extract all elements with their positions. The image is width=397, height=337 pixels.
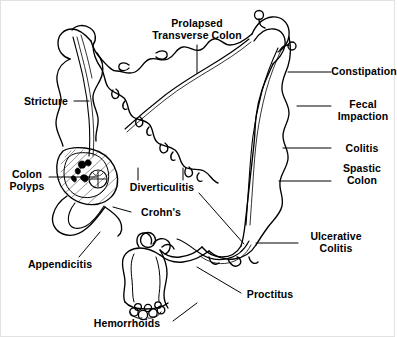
label-hemorrhoids: Hemorrhoids [94, 317, 160, 329]
colon-outline [52, 11, 296, 320]
leader-crohns [113, 207, 131, 212]
polyp-cluster [71, 160, 91, 182]
label-colon-polyps: Colon Polyps [9, 168, 44, 192]
leader-proctitus [197, 267, 241, 293]
label-appendicitis: Appendicitis [28, 258, 92, 270]
label-spastic-colon: Spastic Colon [343, 162, 381, 186]
label-crohns: Crohn's [141, 206, 181, 218]
leader-appendicitis [79, 232, 100, 257]
leader-diverticulitis-c [199, 193, 244, 244]
label-proctitus: Proctitus [247, 288, 293, 300]
label-diverticulitis: Diverticulitis [130, 181, 194, 193]
label-constipation: Constipation [331, 65, 396, 77]
label-colitis: Colitis [346, 142, 379, 154]
label-fecal-impaction: Fecal Impaction [338, 98, 389, 122]
colon-illustration [1, 1, 396, 337]
label-stricture: Stricture [24, 95, 68, 107]
label-prolapsed-transverse-colon: Prolapsed Transverse Colon [152, 17, 242, 41]
leader-hemorrhoids [173, 303, 197, 321]
label-ulcerative-colitis: Ulcerative Colitis [310, 230, 361, 254]
